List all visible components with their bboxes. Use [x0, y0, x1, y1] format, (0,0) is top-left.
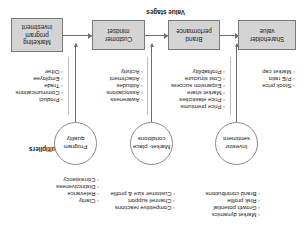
list-item-label: Attachment: [110, 76, 140, 82]
list-item: ◦Trade: [16, 82, 63, 89]
stage-line: performance: [176, 27, 211, 35]
list-item: ◦Growth potential: [206, 204, 260, 211]
multiplier-circle-program-quality[interactable]: Program quality: [54, 122, 97, 165]
value-stages-label: Value stages: [146, 9, 185, 16]
list-item-label: Channel support: [128, 198, 171, 204]
bullet-marker: ◦: [61, 83, 63, 89]
list-item: ◦Market cap: [262, 68, 295, 75]
bullet-marker: ◦: [173, 191, 175, 197]
stage-line: value: [250, 27, 284, 35]
multiplier-line-text: sentiment: [223, 137, 250, 144]
bullet-marker: ◦: [258, 198, 260, 204]
bullet-marker: ◦: [97, 177, 99, 183]
bullet-marker: ◦: [223, 97, 225, 103]
multiplier-line-text: Program: [64, 144, 88, 151]
program-quality-bullets: ◦Clarity ◦Relevance ◦Distinctiveness ◦Co…: [56, 176, 99, 204]
list-item-label: Profitability: [193, 69, 222, 75]
shareholder-value-bullets: ◦Stock price ◦P/E ratio ◦Market cap: [262, 68, 295, 89]
list-item-label: Expansion success: [171, 83, 221, 89]
list-item-label: Growth potential: [214, 205, 257, 211]
list-item-label: P/E ratio: [269, 76, 292, 82]
bullet-marker: ◦: [97, 191, 99, 197]
bullet-marker: ◦: [223, 104, 225, 110]
stage-box-brand-performance[interactable]: Brand performance: [168, 20, 220, 50]
stage-box-marketing-program-investment[interactable]: Marketing program investment: [11, 18, 63, 52]
stage-box-shareholder-value[interactable]: Shareholder value: [238, 20, 296, 50]
bullet-marker: ◦: [173, 205, 175, 211]
list-item: ◦Market share: [171, 89, 225, 96]
list-item: ◦Employee: [16, 75, 63, 82]
multiplier-line-program-quality: [75, 44, 76, 123]
list-item-label: Price premiums: [180, 104, 221, 110]
list-item: ◦Price premiums: [171, 103, 225, 110]
multiplier-arrow-program-quality: [74, 43, 78, 47]
list-item-label: Cost structure: [185, 76, 222, 82]
list-item: ◦Attitudes: [106, 82, 143, 89]
list-item-label: Activity: [121, 69, 140, 75]
list-item: ◦Associations: [106, 89, 143, 96]
list-item-label: Market share: [187, 90, 221, 96]
multiplier-circle-marketplace-conditions[interactable]: Market- place conditions: [130, 122, 173, 165]
list-item: ◦Awareness: [106, 96, 143, 103]
list-item: ◦Market dynamics: [206, 211, 260, 218]
list-item-label: Relevance: [68, 191, 96, 197]
bullet-marker: ◦: [141, 90, 143, 96]
list-item-label: Associations: [106, 90, 139, 96]
list-item-label: Risk profile: [227, 198, 256, 204]
list-item-label: Price elasticities: [179, 97, 221, 103]
stage-line: investment: [22, 24, 52, 32]
multiplier-line-investor-sentiment: [236, 44, 237, 123]
column-separator: [68, 57, 69, 115]
list-item-label: Market cap: [262, 69, 291, 75]
stage-line: mindset: [105, 27, 132, 35]
bullet-marker: ◦: [141, 97, 143, 103]
list-item-label: Employee: [33, 76, 59, 82]
list-item: ◦Communications: [16, 89, 63, 96]
stage-line: Customer: [105, 35, 132, 43]
list-item: ◦Customer size & profile: [111, 190, 176, 197]
list-item-label: Product: [39, 97, 59, 103]
multiplier-circle-investor-sentiment[interactable]: Investor sentiment: [215, 122, 258, 165]
bullet-marker: ◦: [223, 90, 225, 96]
bullet-marker: ◦: [141, 76, 143, 82]
list-item: ◦Competitive reactions: [111, 204, 176, 211]
list-item: ◦Activity: [106, 68, 143, 75]
investor-sentiment-bullets: ◦Market dynamics ◦Growth potential ◦Risk…: [206, 190, 260, 218]
list-item: ◦Attachment: [106, 75, 143, 82]
list-item: ◦Channel support: [111, 197, 176, 204]
stage-box-customer-mindset[interactable]: Customer mindset: [92, 20, 145, 50]
column-separator: [147, 57, 148, 115]
multiplier-line-text: place: [133, 144, 148, 151]
list-item-label: Communications: [16, 90, 60, 96]
multiplier-line-marketplace-conditions: [151, 44, 152, 123]
list-item-label: Stock price: [262, 83, 291, 89]
list-item: ◦Cost structure: [171, 75, 225, 82]
multiplier-line-text: Market-: [149, 144, 170, 151]
bullet-marker: ◦: [97, 198, 99, 204]
list-item-label: Attitudes: [116, 83, 139, 89]
marketplace-conditions-bullets: ◦Competitive reactions ◦Channel support …: [111, 190, 176, 211]
bullet-marker: ◦: [258, 205, 260, 211]
list-item: ◦Expansion success: [171, 82, 225, 89]
stage-line: Shareholder: [250, 35, 284, 43]
bullet-marker: ◦: [258, 212, 260, 218]
column-separator: [230, 57, 231, 115]
stage-line: Brand: [176, 35, 211, 43]
list-item: ◦Clarity: [56, 197, 99, 204]
list-item-label: Market dynamics: [212, 212, 257, 218]
bullet-marker: ◦: [258, 191, 260, 197]
list-item-label: Consistency: [63, 177, 95, 183]
list-item-label: Other: [45, 69, 60, 75]
bullet-marker: ◦: [293, 83, 295, 89]
list-item-label: Clarity: [79, 198, 96, 204]
multiplier-line-text: Investor: [226, 144, 248, 151]
bullet-marker: ◦: [61, 90, 63, 96]
list-item-label: Trade: [44, 83, 59, 89]
bullet-marker: ◦: [141, 69, 143, 75]
stage-line: program: [22, 31, 52, 39]
brand-performance-bullets: ◦Price premiums ◦Price elasticities ◦Mar…: [171, 67, 225, 110]
list-item-label: Brand contributions: [206, 191, 257, 197]
bullet-marker: ◦: [97, 184, 99, 190]
marketing-program-investment-bullets: ◦Product ◦Communications ◦Trade ◦Employe…: [16, 68, 63, 103]
list-item-label: Distinctiveness: [56, 184, 95, 190]
